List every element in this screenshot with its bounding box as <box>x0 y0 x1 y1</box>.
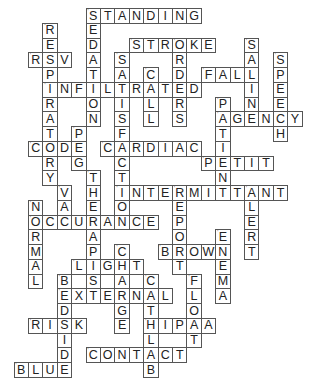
crossword-cell[interactable]: N <box>215 170 230 186</box>
crossword-cell[interactable]: A <box>86 229 101 245</box>
crossword-cell[interactable]: R <box>158 38 173 54</box>
crossword-cell[interactable]: R <box>28 229 43 245</box>
crossword-cell[interactable]: ʹC <box>86 347 101 363</box>
crossword-cell[interactable]: ʹL <box>71 259 86 275</box>
crossword-cell[interactable]: L <box>143 333 158 349</box>
crossword-cell[interactable]: ʹP <box>201 156 216 172</box>
crossword-cell[interactable]: ʹI <box>42 82 57 98</box>
crossword-cell[interactable]: G <box>186 8 201 24</box>
crossword-cell[interactable]: P <box>172 215 187 231</box>
crossword-cell[interactable]: T <box>215 126 230 142</box>
crossword-cell[interactable]: T <box>158 82 173 98</box>
crossword-cell[interactable]: P <box>273 67 288 83</box>
crossword-cell[interactable]: E <box>143 215 158 231</box>
crossword-cell[interactable]: M <box>215 274 230 290</box>
crossword-cell[interactable]: O <box>186 244 201 260</box>
crossword-cell[interactable]: A <box>28 259 43 275</box>
crossword-cell[interactable]: I <box>158 141 173 157</box>
crossword-cell[interactable]: L <box>186 288 201 304</box>
crossword-cell[interactable]: E <box>86 23 101 39</box>
crossword-cell[interactable]: C <box>42 215 57 231</box>
crossword-cell[interactable]: D <box>57 347 72 363</box>
crossword-cell[interactable]: M <box>28 244 43 260</box>
crossword-cell[interactable]: ʹB <box>57 274 72 290</box>
crossword-cell[interactable]: C <box>129 215 144 231</box>
crossword-cell[interactable]: R <box>172 97 187 113</box>
crossword-cell[interactable]: A <box>57 200 72 216</box>
crossword-cell[interactable]: N <box>114 215 129 231</box>
crossword-cell[interactable]: N <box>57 82 72 98</box>
crossword-cell[interactable]: L <box>28 274 43 290</box>
crossword-cell[interactable]: R <box>172 244 187 260</box>
crossword-cell[interactable]: ʹS <box>114 52 129 68</box>
crossword-cell[interactable]: G <box>230 111 245 127</box>
crossword-cell[interactable]: L <box>143 111 158 127</box>
crossword-cell[interactable]: A <box>244 52 259 68</box>
crossword-cell[interactable]: ʹB <box>158 244 173 260</box>
crossword-cell[interactable]: O <box>86 97 101 113</box>
crossword-cell[interactable]: T <box>86 67 101 83</box>
crossword-cell[interactable]: ʹF <box>186 274 201 290</box>
crossword-cell[interactable]: A <box>143 82 158 98</box>
crossword-cell[interactable]: ʹH <box>143 318 158 334</box>
crossword-cell[interactable]: E <box>172 200 187 216</box>
crossword-cell[interactable]: T <box>114 170 129 186</box>
crossword-cell[interactable]: F <box>114 126 129 142</box>
crossword-cell[interactable]: D <box>172 67 187 83</box>
crossword-cell[interactable]: C <box>158 347 173 363</box>
crossword-cell[interactable]: E <box>244 215 259 231</box>
crossword-cell[interactable]: ʹT <box>86 170 101 186</box>
crossword-cell[interactable]: R <box>114 288 129 304</box>
crossword-cell[interactable]: A <box>143 288 158 304</box>
crossword-cell[interactable]: ʹC <box>114 244 129 260</box>
crossword-cell[interactable]: ʹR <box>172 185 187 201</box>
crossword-cell[interactable]: ʹS <box>129 38 144 54</box>
crossword-cell[interactable]: D <box>143 8 158 24</box>
crossword-cell[interactable]: R <box>42 97 57 113</box>
crossword-cell[interactable]: ʹS <box>244 38 259 54</box>
crossword-cell[interactable]: D <box>86 38 101 54</box>
crossword-cell[interactable]: ʹS <box>86 8 101 24</box>
crossword-cell[interactable]: N <box>129 8 144 24</box>
crossword-cell[interactable]: U <box>42 362 57 378</box>
crossword-cell[interactable]: U <box>71 215 86 231</box>
crossword-cell[interactable]: F <box>71 82 86 98</box>
crossword-cell[interactable]: T <box>273 185 288 201</box>
crossword-cell[interactable]: L <box>100 82 115 98</box>
crossword-cell[interactable]: N <box>129 288 144 304</box>
crossword-cell[interactable]: A <box>114 141 129 157</box>
crossword-cell[interactable]: T <box>143 38 158 54</box>
crossword-cell[interactable]: N <box>258 185 273 201</box>
crossword-cell[interactable]: A <box>114 67 129 83</box>
crossword-cell[interactable]: E <box>42 38 57 54</box>
crossword-cell[interactable]: S <box>57 318 72 334</box>
crossword-cell[interactable]: O <box>100 347 115 363</box>
crossword-cell[interactable]: A <box>215 288 230 304</box>
crossword-cell[interactable]: ʹC <box>143 67 158 83</box>
crossword-cell[interactable]: ʹE <box>57 288 72 304</box>
crossword-cell[interactable]: E <box>86 200 101 216</box>
crossword-cell[interactable]: ʹA <box>244 185 259 201</box>
crossword-cell[interactable]: ʹB <box>14 362 29 378</box>
crossword-cell[interactable]: A <box>42 111 57 127</box>
crossword-cell[interactable]: G <box>100 259 115 275</box>
crossword-cell[interactable]: ʹP <box>71 126 86 142</box>
crossword-cell[interactable]: ʹI <box>114 185 129 201</box>
crossword-cell[interactable]: W <box>201 244 216 260</box>
crossword-cell[interactable]: O <box>186 303 201 319</box>
crossword-cell[interactable]: B <box>143 362 158 378</box>
crossword-cell[interactable]: E <box>244 111 259 127</box>
crossword-cell[interactable]: H <box>114 259 129 275</box>
crossword-cell[interactable]: H <box>86 185 101 201</box>
crossword-cell[interactable]: I <box>114 97 129 113</box>
crossword-cell[interactable]: ʹR <box>28 52 43 68</box>
crossword-cell[interactable]: T <box>143 303 158 319</box>
crossword-cell[interactable]: R <box>42 156 57 172</box>
crossword-cell[interactable]: V <box>57 52 72 68</box>
crossword-cell[interactable]: I <box>158 8 173 24</box>
crossword-cell[interactable]: L <box>244 200 259 216</box>
crossword-cell[interactable]: ʹS <box>273 52 288 68</box>
crossword-cell[interactable]: I <box>215 141 230 157</box>
crossword-cell[interactable]: ʹE <box>215 229 230 245</box>
crossword-cell[interactable]: I <box>86 82 101 98</box>
